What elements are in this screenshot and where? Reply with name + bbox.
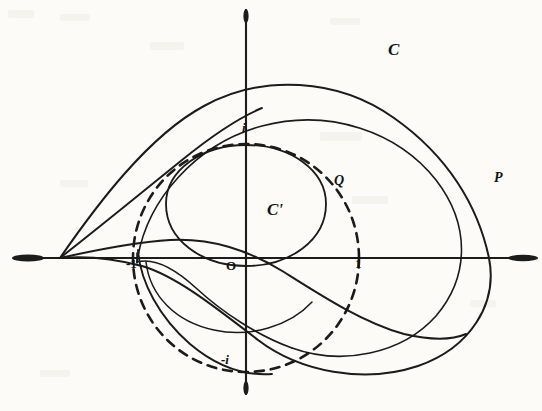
curve-mid-arc	[137, 120, 462, 356]
tick-label-minus-i: -i	[221, 352, 229, 368]
origin-label: O	[226, 258, 236, 274]
curve-descend-from-minus1	[138, 250, 272, 374]
point-label-P: P	[494, 170, 503, 186]
curve-label-C: C	[388, 40, 399, 60]
tick-label-one: 1	[355, 256, 362, 272]
point-label-Q: Q	[334, 173, 344, 189]
tick-label-i: i	[242, 120, 246, 136]
curve-label-C-prime: C'	[267, 200, 283, 220]
tick-label-minus-one: -1	[126, 256, 137, 272]
imaginary-axis	[243, 9, 248, 395]
figure-canvas: C C' Q P -1 1 i -i O	[0, 0, 542, 411]
curve-cardioid-C	[60, 85, 491, 375]
curve-lower-sweep	[60, 240, 466, 339]
